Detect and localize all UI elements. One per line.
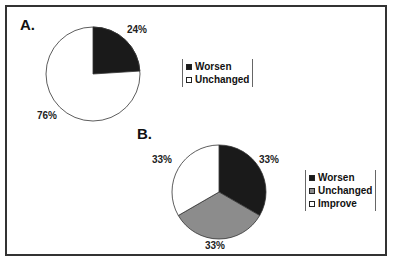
legend-label: Worsen	[318, 172, 355, 183]
pie-b-worsen-pct: 33%	[259, 154, 279, 165]
legend-swatch-unchanged	[186, 77, 192, 83]
legend-label: Unchanged	[318, 185, 372, 196]
pie-b-improve-pct: 33%	[152, 154, 172, 165]
pie-a-worsen-pct: 24%	[127, 24, 147, 35]
legend-b-item-worsen: Worsen	[309, 171, 372, 184]
legend-b-item-improve: Improve	[309, 197, 372, 210]
legend-swatch-worsen	[186, 64, 192, 70]
legend-label: Improve	[318, 198, 357, 209]
panel-a-label: A.	[20, 16, 35, 33]
pie-chart-b	[170, 143, 268, 241]
legend-swatch-unchanged	[309, 188, 315, 194]
pie-b-unchanged-pct: 33%	[205, 240, 225, 251]
legend-a: Worsen Unchanged	[182, 59, 253, 87]
legend-a-item-worsen: Worsen	[186, 60, 249, 73]
legend-swatch-improve	[309, 201, 315, 207]
legend-label: Unchanged	[195, 74, 249, 85]
legend-b-item-unchanged: Unchanged	[309, 184, 372, 197]
panel-b-label: B.	[137, 125, 152, 142]
legend-a-item-unchanged: Unchanged	[186, 73, 249, 86]
pie-a-unchanged-pct: 76%	[37, 110, 57, 121]
pie-chart-a	[44, 25, 142, 123]
legend-label: Worsen	[195, 61, 232, 72]
legend-b: Worsen Unchanged Improve	[305, 170, 376, 211]
legend-swatch-worsen	[309, 175, 315, 181]
